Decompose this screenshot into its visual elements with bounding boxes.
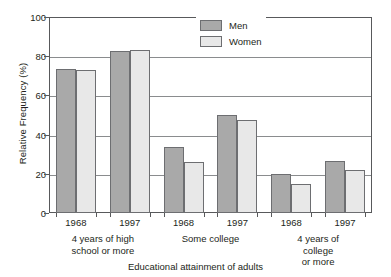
x-group-label: 4 years of high school or more	[71, 233, 134, 256]
bar-women-1968-g0	[76, 70, 96, 213]
bar-men-1968-g0	[56, 69, 76, 213]
x-year-label: 1997	[335, 217, 356, 228]
y-tick-label: 100	[18, 12, 46, 23]
bar-chart: Relative Frequency (%) 020406080100 1968…	[0, 0, 391, 277]
legend-label: Men	[229, 20, 247, 31]
bar-women-1968-g2	[291, 184, 311, 213]
legend-swatch-men	[200, 20, 222, 31]
bar-women-1997-g2	[345, 170, 365, 213]
x-year-label: 1968	[281, 217, 302, 228]
x-tick-mark	[311, 213, 312, 217]
legend-label: Women	[229, 36, 262, 47]
bar-men-1968-g1	[164, 147, 184, 213]
x-year-label: 1968	[65, 217, 86, 228]
bar-women-1968-g1	[184, 162, 204, 213]
y-tick-label: 80	[18, 51, 46, 62]
x-tick-mark	[56, 213, 57, 217]
x-year-label: 1997	[227, 217, 248, 228]
x-tick-mark	[257, 213, 258, 217]
bar-women-1997-g0	[130, 50, 150, 213]
legend-item-men: Men	[200, 18, 262, 32]
x-tick-mark	[164, 213, 165, 217]
x-tick-mark	[365, 213, 366, 217]
bar-men-1968-g2	[271, 174, 291, 213]
legend-swatch-women	[200, 36, 222, 47]
bar-men-1997-g2	[325, 161, 345, 213]
x-tick-mark	[96, 213, 97, 217]
x-tick-mark	[217, 213, 218, 217]
y-tick-label: 20	[18, 168, 46, 179]
y-tick-label: 40	[18, 129, 46, 140]
x-year-label: 1997	[119, 217, 140, 228]
x-axis-title: Educational attainment of adults	[0, 261, 391, 272]
x-tick-mark	[204, 213, 205, 217]
legend: MenWomen	[196, 16, 266, 50]
bar-men-1997-g0	[110, 51, 130, 213]
y-tick-label: 60	[18, 90, 46, 101]
x-group-label: Some college	[182, 233, 240, 245]
y-tick-mark	[44, 213, 49, 214]
legend-item-women: Women	[200, 34, 262, 48]
y-tick-label: 0	[18, 208, 46, 219]
x-tick-mark	[110, 213, 111, 217]
bar-women-1997-g1	[237, 120, 257, 213]
x-tick-mark	[271, 213, 272, 217]
x-tick-mark	[150, 213, 151, 217]
bar-men-1997-g1	[217, 115, 237, 213]
x-year-label: 1968	[173, 217, 194, 228]
x-tick-mark	[325, 213, 326, 217]
